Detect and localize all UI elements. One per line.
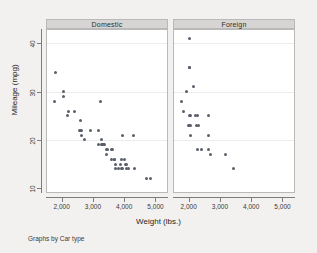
panel-header-label: Foreign (221, 21, 246, 28)
data-point (83, 138, 86, 141)
x-tick (220, 198, 221, 202)
gridline (174, 43, 294, 44)
x-axis-title: Weight (lbs.) (0, 217, 317, 226)
data-point (119, 163, 122, 166)
data-point (196, 114, 199, 117)
data-point (80, 129, 83, 132)
data-point (53, 100, 56, 103)
gridline (47, 43, 167, 44)
data-point (182, 110, 185, 113)
data-point (97, 129, 100, 132)
y-tick-label: 30 (26, 87, 38, 94)
data-point (99, 100, 102, 103)
data-point (79, 119, 82, 122)
y-axis-title-text: Mileage (mpg) (10, 104, 19, 116)
data-point (113, 158, 116, 161)
y-tick-label: 20 (26, 135, 38, 142)
data-point (200, 148, 203, 151)
data-point (80, 134, 83, 137)
data-point (125, 163, 128, 166)
x-tick (282, 198, 283, 202)
data-point (106, 148, 109, 151)
data-point (123, 158, 126, 161)
data-point (207, 148, 210, 151)
x-tick-label: 2,000 (181, 203, 197, 210)
data-point (149, 177, 152, 180)
x-tick-label: 3,000 (85, 203, 101, 210)
x-tick-label: 4,000 (243, 203, 259, 210)
y-tick-label-text: 20 (29, 132, 36, 144)
data-point (224, 153, 227, 156)
data-point (62, 95, 65, 98)
y-tick-label: 10 (26, 183, 38, 190)
data-point (114, 163, 117, 166)
panel-header-foreign: Foreign (173, 19, 295, 29)
plot-area-foreign (173, 29, 295, 193)
x-tick (155, 198, 156, 202)
y-tick-label-text: 10 (29, 181, 36, 193)
data-point (66, 114, 69, 117)
data-point (67, 110, 70, 113)
data-point (189, 114, 192, 117)
panel-header-domestic: Domestic (46, 19, 168, 29)
data-point (197, 124, 200, 127)
data-point (132, 134, 135, 137)
data-point (192, 85, 195, 88)
data-point (103, 143, 106, 146)
data-point (73, 110, 76, 113)
x-axis-line-1 (173, 197, 295, 198)
data-point (189, 124, 192, 127)
data-point (111, 148, 114, 151)
y-axis-line (41, 29, 42, 193)
data-point (232, 167, 235, 170)
data-point (185, 90, 188, 93)
chart-canvas: Domestic Foreign 102030402,0003,0004,000… (0, 0, 317, 253)
panel-header-label: Domestic (92, 21, 123, 28)
x-tick (62, 198, 63, 202)
y-tick-label: 40 (26, 38, 38, 45)
x-tick (251, 198, 252, 202)
data-point (100, 138, 103, 141)
data-point (54, 71, 57, 74)
x-tick (93, 198, 94, 202)
figure-note: Graphs by Car type (28, 235, 84, 242)
data-point (188, 66, 191, 69)
gridline (47, 140, 167, 141)
data-point (145, 177, 148, 180)
data-point (207, 114, 210, 117)
x-tick (189, 198, 190, 202)
y-axis-title: Mileage (mpg) (8, 105, 20, 114)
data-point (189, 134, 192, 137)
data-point (180, 100, 183, 103)
x-axis-line-0 (46, 197, 168, 198)
y-tick-label-text: 30 (29, 84, 36, 96)
data-point (89, 129, 92, 132)
x-tick-label: 3,000 (212, 203, 228, 210)
data-point (105, 153, 108, 156)
x-tick-label: 4,000 (116, 203, 132, 210)
x-tick (124, 198, 125, 202)
x-tick-label: 5,000 (147, 203, 163, 210)
gridline (47, 92, 167, 93)
gridline (174, 140, 294, 141)
x-tick-label: 2,000 (54, 203, 70, 210)
data-point (196, 148, 199, 151)
data-point (121, 134, 124, 137)
data-point (207, 134, 210, 137)
y-tick-label-text: 40 (29, 36, 36, 48)
data-point (209, 153, 212, 156)
data-point (62, 90, 65, 93)
data-point (188, 37, 191, 40)
data-point (133, 167, 136, 170)
plot-area-domestic (46, 29, 168, 193)
data-point (127, 167, 130, 170)
x-tick-label: 5,000 (274, 203, 290, 210)
gridline (174, 92, 294, 93)
